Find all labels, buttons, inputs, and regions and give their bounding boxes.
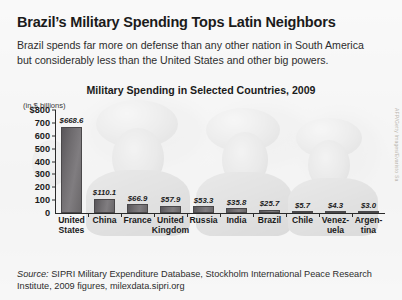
x-axis-tick-mark	[220, 213, 221, 217]
y-axis-tick-label: $800	[12, 105, 50, 115]
y-axis-tick-mark	[52, 148, 56, 149]
x-axis-tick-mark	[121, 213, 122, 217]
x-axis-tick-mark	[253, 213, 254, 217]
bar-fill	[226, 208, 246, 213]
y-axis-tick-label: 400	[12, 157, 50, 167]
y-axis-tick-label: 0	[12, 208, 50, 218]
bar-value-label: $35.8	[220, 198, 253, 207]
photo-credit: AFP/Getty Images/Evaristo Sa	[394, 108, 400, 181]
bar-fill	[325, 211, 345, 213]
chart-title: Military Spending in Selected Countries,…	[0, 84, 402, 96]
bar-value-label: $5.7	[286, 201, 319, 210]
bar[interactable]	[61, 127, 81, 213]
category-label-line: Kingdom	[148, 226, 193, 236]
bar-fill	[61, 127, 81, 213]
y-axis-tick-label: 500	[12, 144, 50, 154]
y-axis-tick-label: 200	[12, 182, 50, 192]
bar-fill	[259, 210, 279, 213]
source-citation: Source: SIPRI Military Expenditure Datab…	[17, 268, 389, 293]
y-axis-tick-label: 100	[12, 195, 50, 205]
y-axis-tick-label: 600	[12, 131, 50, 141]
page-title: Brazil’s Military Spending Tops Latin Ne…	[17, 14, 377, 31]
plot-area: $668.6$110.1$66.9$57.9$53.3$35.8$25.7$5.…	[55, 110, 385, 213]
bar-fill	[160, 206, 180, 213]
y-axis-tick-mark	[52, 122, 56, 123]
bar-fill	[358, 211, 378, 213]
bar-value-label: $668.6	[55, 116, 88, 125]
y-axis-ticks: $8007006005004003002001000	[10, 110, 50, 213]
bar-fill	[193, 206, 213, 213]
x-axis-tick-mark	[88, 213, 89, 217]
bar-value-label: $66.9	[121, 194, 154, 203]
bar-fill	[127, 204, 147, 213]
bar-fill	[292, 211, 312, 213]
bar-value-label: $57.9	[154, 195, 187, 204]
y-axis-tick-label: 300	[12, 169, 50, 179]
x-axis-tick-mark	[154, 213, 155, 217]
bar-value-label: $4.3	[319, 201, 352, 210]
y-axis-tick-label: 700	[12, 118, 50, 128]
bar-fill	[94, 199, 114, 213]
bar-value-label: $110.1	[88, 188, 121, 197]
bar[interactable]	[226, 208, 246, 213]
bar[interactable]	[358, 212, 378, 214]
y-axis-tick-mark	[52, 187, 56, 188]
bar[interactable]	[127, 204, 147, 213]
x-axis-tick-mark	[319, 213, 320, 217]
infographic-page: Brazil’s Military Spending Tops Latin Ne…	[0, 0, 402, 300]
y-axis-tick-mark	[52, 110, 56, 111]
y-axis-tick-mark	[52, 174, 56, 175]
x-axis-tick-mark	[187, 213, 188, 217]
x-axis-labels: UnitedStatesChinaFranceUnitedKingdomRuss…	[55, 216, 385, 242]
bar[interactable]	[292, 212, 312, 214]
bar[interactable]	[160, 206, 180, 213]
x-axis-category-label: Argen-tina	[346, 216, 391, 235]
bar[interactable]	[325, 212, 345, 214]
bar-value-label: $53.3	[187, 196, 220, 205]
bar-value-label: $25.7	[253, 199, 286, 208]
bar[interactable]	[193, 206, 213, 213]
bar[interactable]	[94, 199, 114, 213]
category-label-line: tina	[346, 226, 391, 236]
y-axis-tick-mark	[52, 135, 56, 136]
bar-chart: $8007006005004003002001000 $668.6$110.1$…	[0, 110, 402, 238]
subtitle-text: Brazil spends far more on defense than a…	[17, 38, 365, 68]
bar-value-label: $3.0	[352, 201, 385, 210]
y-axis-tick-mark	[52, 200, 56, 201]
source-label: Source:	[17, 269, 49, 279]
x-axis-tick-mark	[286, 213, 287, 217]
category-label-line: States	[49, 226, 94, 236]
x-axis-tick-mark	[352, 213, 353, 217]
bar[interactable]	[259, 210, 279, 213]
source-text: SIPRI Military Expenditure Database, Sto…	[17, 269, 372, 291]
y-axis-tick-mark	[52, 161, 56, 162]
